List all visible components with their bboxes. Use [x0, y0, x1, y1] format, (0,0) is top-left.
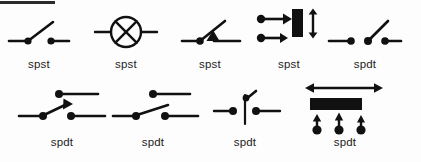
- knife-switch-open-icon: [8, 14, 70, 50]
- symbol-cell-r1c5: [328, 14, 402, 50]
- diagram-canvas: spst spst spst: [0, 0, 421, 162]
- symbol-cell-r1c3: [181, 14, 241, 50]
- spdt-plain-blade-icon: [112, 88, 200, 128]
- symbol-label-r2c2: spdt: [121, 136, 185, 148]
- symbol-label-r2c3: spdt: [213, 136, 277, 148]
- symbol-label-r1c1: spst: [8, 58, 70, 70]
- symbol-cell-r1c2: [94, 12, 158, 52]
- spdt-arrow-blade-icon: [18, 88, 106, 128]
- symbol-cell-r2c4: [300, 82, 400, 136]
- symbol-cell-r1c1: [8, 14, 70, 50]
- symbol-cell-r2c3: [212, 90, 282, 130]
- symbol-label-r2c4: spdt: [313, 136, 377, 148]
- cropped-header-bar: [0, 1, 55, 4]
- lamp-circle-cross-icon: [94, 12, 158, 52]
- symbol-cell-r1c4: [256, 8, 322, 52]
- spdt-vertical-stem-icon: [212, 90, 282, 130]
- slide-switch-horizontal-icon: [300, 82, 400, 136]
- slide-switch-vertical-icon: [256, 8, 322, 52]
- symbol-cell-r2c1: [18, 88, 106, 128]
- symbol-label-r2c1: spdt: [30, 136, 94, 148]
- symbol-label-r1c5: spdt: [334, 58, 396, 70]
- symbol-label-r1c3: spst: [180, 58, 240, 70]
- changeover-switch-icon: [328, 14, 402, 50]
- symbol-label-r1c4: spst: [258, 58, 320, 70]
- switch-with-triangle-icon: [181, 14, 241, 50]
- symbol-cell-r2c2: [112, 88, 200, 128]
- symbol-label-r1c2: spst: [94, 58, 158, 70]
